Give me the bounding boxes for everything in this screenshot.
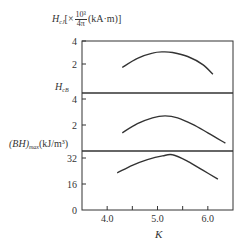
plot-frame bbox=[82, 41, 233, 210]
panel1-ylabel: HcJ[×10³4π(kA·m)] bbox=[52, 11, 121, 28]
y-tick-label: 2 bbox=[72, 59, 77, 70]
x-axis-label: K bbox=[155, 229, 162, 240]
x-tick-label: 5.0 bbox=[151, 213, 164, 224]
panel1-ylabel-fraction: 10³4π bbox=[75, 11, 87, 28]
x-tick-label: 6.0 bbox=[202, 213, 215, 224]
x-tick-label: 4.0 bbox=[101, 213, 114, 224]
curve-hcj bbox=[122, 52, 213, 74]
curve-bhmax bbox=[117, 154, 218, 179]
panel3-ylabel: (BH)max(kJ/m³) bbox=[9, 139, 68, 150]
panel3-ylabel-main: (BH) bbox=[9, 138, 29, 149]
panel2-ylabel-sub: cB bbox=[62, 87, 68, 93]
y-tick-label: 4 bbox=[72, 36, 77, 47]
panel3-ylabel-sub: max bbox=[29, 144, 39, 150]
panel2-ylabel: HcB bbox=[55, 82, 69, 93]
curve-hcb bbox=[122, 116, 225, 143]
y-tick-label: 16 bbox=[67, 179, 77, 190]
y-tick-label: 32 bbox=[67, 153, 77, 164]
panel1-ylabel-suffix: (kA·m)] bbox=[88, 13, 121, 24]
y-tick-label: 4 bbox=[72, 94, 77, 105]
y-tick-label: 0 bbox=[72, 205, 77, 216]
y-tick-label: 2 bbox=[72, 120, 77, 131]
panel1-ylabel-prefix: [× bbox=[65, 13, 74, 24]
fraction-denominator: 4π bbox=[75, 20, 87, 28]
chart-canvas: 2424016324.05.06.0 bbox=[0, 0, 244, 247]
panel3-ylabel-unit: (kJ/m³) bbox=[39, 138, 68, 149]
